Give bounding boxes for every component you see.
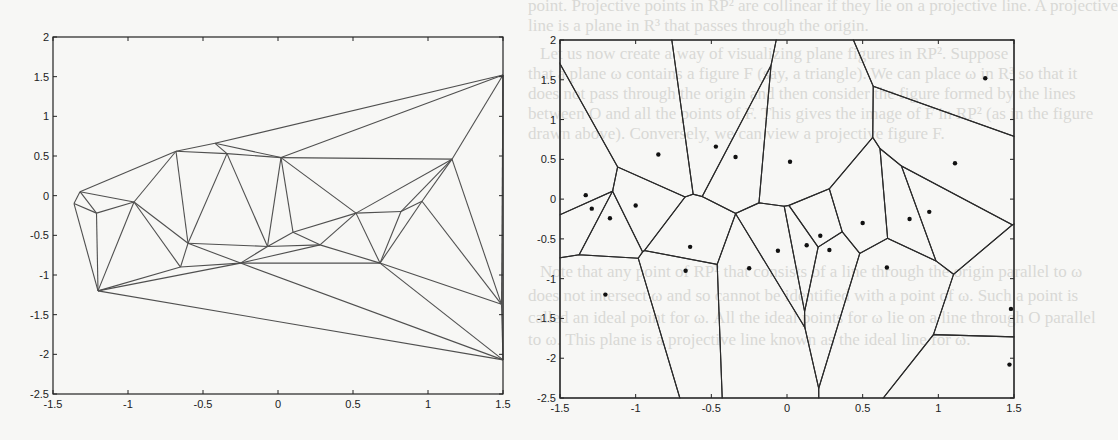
triangle-edge xyxy=(98,202,134,291)
y-tick-label: 1 xyxy=(43,110,49,122)
site-point xyxy=(885,265,889,269)
triangle-edge xyxy=(188,243,241,263)
triangle-edge xyxy=(422,159,452,201)
y-tick-label: -1 xyxy=(546,273,556,285)
y-tick-label: -1.5 xyxy=(537,312,556,324)
triangle-edge xyxy=(401,159,452,211)
x-tick-label: 0.5 xyxy=(345,398,360,410)
site-point xyxy=(714,144,718,148)
voronoi-cell xyxy=(560,255,680,398)
site-point xyxy=(683,269,687,273)
triangle-edge xyxy=(293,213,356,232)
triangle-edge xyxy=(181,243,189,267)
triangulation-edges xyxy=(74,75,503,360)
voronoi-sites xyxy=(584,76,1014,367)
x-tick-label: 0.5 xyxy=(855,402,870,414)
voronoi-cell xyxy=(805,232,860,388)
triangle-edge xyxy=(134,202,188,243)
x-tick-label: -0.5 xyxy=(194,398,213,410)
triangle-edge xyxy=(320,213,356,245)
voronoi-cell xyxy=(880,149,936,261)
triangle-edge xyxy=(80,151,176,191)
y-tick-label: 2 xyxy=(550,34,556,46)
voronoi-cell xyxy=(901,166,1012,274)
y-tick-label: -2 xyxy=(546,352,556,364)
site-point xyxy=(788,160,792,164)
voronoi-cell xyxy=(789,189,842,247)
voronoi-cell xyxy=(759,40,873,206)
triangle-edge xyxy=(281,75,503,158)
triangle-edge xyxy=(241,245,321,263)
triangle-edge xyxy=(293,232,320,245)
site-point xyxy=(733,155,737,159)
site-point xyxy=(1009,307,1013,311)
triangle-edge xyxy=(320,245,380,263)
voronoi-cell xyxy=(579,191,642,258)
triangle-edge xyxy=(134,202,181,267)
triangle-edge xyxy=(281,158,293,233)
voronoi-cell xyxy=(933,224,1014,337)
site-point xyxy=(688,245,692,249)
triangle-edge xyxy=(452,75,503,159)
site-point xyxy=(633,203,637,207)
voronoi-cell xyxy=(702,66,771,214)
site-point xyxy=(983,76,987,80)
triangle-edge xyxy=(356,213,380,263)
y-tick-label: -2 xyxy=(39,348,49,360)
y-tick-label: -1.5 xyxy=(30,309,49,321)
x-tick-label: 0 xyxy=(784,402,790,414)
triangle-edge xyxy=(134,151,176,202)
voronoi-cell xyxy=(829,137,887,253)
x-tick-label: -1 xyxy=(631,402,641,414)
voronoi-cell xyxy=(784,205,818,311)
voronoi-cell xyxy=(736,203,805,328)
site-point xyxy=(818,234,822,238)
triangle-edge xyxy=(80,192,134,202)
site-point xyxy=(953,161,957,165)
triangle-edge xyxy=(380,201,422,263)
y-tick-label: -0.5 xyxy=(537,233,556,245)
y-tick-label: -1 xyxy=(39,269,49,281)
voronoi-cell xyxy=(560,40,693,197)
triangle-edge xyxy=(176,151,227,153)
site-point xyxy=(656,152,660,156)
y-tick-label: 0 xyxy=(43,190,49,202)
triangle-edge xyxy=(74,204,98,291)
x-tick-label: -1 xyxy=(123,398,133,410)
site-point xyxy=(584,193,588,197)
triangle-edge xyxy=(268,232,294,246)
triangle-edge xyxy=(356,212,401,214)
triangle-edge xyxy=(176,151,188,243)
site-point xyxy=(603,292,607,296)
voronoi-cell xyxy=(560,191,613,257)
voronoi-edges xyxy=(560,40,1014,398)
voronoi-cell xyxy=(644,194,735,264)
left-axis-ticks: -1.5-1-0.500.511.521.510.50-0.5-1-1.5-2-… xyxy=(30,31,511,410)
y-tick-label: -2.5 xyxy=(30,388,49,400)
y-tick-label: 0 xyxy=(550,193,556,205)
x-tick-label: -0.5 xyxy=(702,402,721,414)
site-point xyxy=(827,248,831,252)
triangle-edge xyxy=(268,158,282,247)
y-tick-label: 0.5 xyxy=(34,150,49,162)
voronoi-cell xyxy=(873,86,1014,225)
voronoi-cell xyxy=(638,251,722,398)
site-point xyxy=(927,210,931,214)
y-tick-label: 1.5 xyxy=(541,74,556,86)
triangle-edge xyxy=(380,263,503,360)
voronoi-cell xyxy=(883,335,1014,398)
site-point xyxy=(776,249,780,253)
triangle-edge xyxy=(452,159,502,304)
delaunay-triangulation-plot: -1.5-1-0.500.511.521.510.50-0.5-1-1.5-2-… xyxy=(30,31,511,410)
triangle-edge xyxy=(97,202,135,213)
x-tick-label: 0 xyxy=(275,398,281,410)
triangle-edge xyxy=(98,263,241,291)
right-axis-ticks: -1.5-1-0.500.511.521.510.50-0.5-1-1.5-2-… xyxy=(537,34,1022,414)
y-tick-label: -2.5 xyxy=(537,392,556,404)
voronoi-diagram-plot: -1.5-1-0.500.511.521.510.50-0.5-1-1.5-2-… xyxy=(537,34,1022,414)
site-point xyxy=(608,216,612,220)
triangle-edge xyxy=(176,143,215,151)
triangle-edge xyxy=(281,158,452,160)
triangle-edge xyxy=(356,159,452,213)
